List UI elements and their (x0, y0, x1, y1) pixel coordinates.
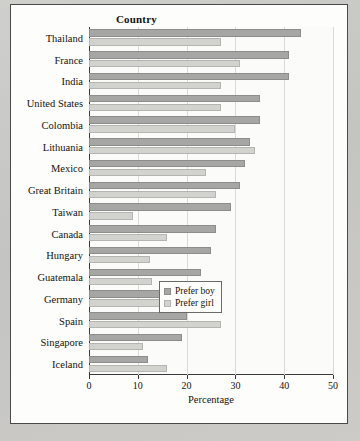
x-tick-mark-50 (333, 375, 334, 379)
y-axis-tick-label: Iceland (52, 359, 83, 370)
chart-row: Colombia (89, 114, 333, 136)
chart-row: Canada (89, 223, 333, 245)
x-tick-mark-30 (235, 375, 236, 379)
bar-prefer-girl (89, 169, 206, 176)
figure-panel: Country ThailandFranceIndiaUnited States… (10, 4, 348, 424)
y-axis-tick-label: India (61, 76, 83, 87)
bar-prefer-girl (89, 256, 150, 263)
y-axis-tick-label: Taiwan (52, 206, 83, 217)
y-axis-tick-label: Lithuania (43, 141, 83, 152)
x-axis-tick-label: 0 (87, 380, 92, 391)
x-tick-mark-20 (187, 375, 188, 379)
y-axis-tick-label: Guatemala (38, 272, 83, 283)
x-axis-tick-label: 20 (182, 380, 192, 391)
x-axis-title: Percentage (89, 394, 333, 405)
y-axis-tick-label: Spain (59, 315, 83, 326)
bar-prefer-girl (89, 60, 240, 67)
chart-row: India (89, 71, 333, 93)
bar-prefer-boy (89, 225, 216, 232)
legend-label-prefer-boy: Prefer boy (175, 285, 215, 297)
bar-prefer-girl (89, 234, 167, 241)
chart-row: Iceland (89, 353, 333, 375)
bar-prefer-girl (89, 212, 133, 219)
chart-row: Taiwan (89, 201, 333, 223)
bar-prefer-boy (89, 29, 301, 36)
x-axis-tick-label: 40 (279, 380, 289, 391)
bar-prefer-girl (89, 278, 152, 285)
chart-row: Hungary (89, 245, 333, 267)
chart-row: Lithuania (89, 136, 333, 158)
y-axis-tick-label: Singapore (40, 337, 83, 348)
bar-prefer-boy (89, 312, 187, 319)
legend-label-prefer-girl: Prefer girl (175, 297, 214, 309)
bar-prefer-boy (89, 51, 289, 58)
bar-prefer-boy (89, 356, 148, 363)
bar-prefer-girl (89, 125, 235, 132)
bar-prefer-girl (89, 191, 216, 198)
chart-row: United States (89, 92, 333, 114)
bar-prefer-boy (89, 73, 289, 80)
plot-area: ThailandFranceIndiaUnited StatesColombia… (89, 27, 333, 375)
bar-prefer-girl (89, 82, 221, 89)
bar-prefer-boy (89, 269, 201, 276)
bar-prefer-girl (89, 343, 143, 350)
x-tick-mark-10 (138, 375, 139, 379)
x-tick-mark-40 (284, 375, 285, 379)
y-axis-tick-label: Thailand (46, 32, 83, 43)
bar-prefer-boy (89, 203, 231, 210)
bar-prefer-girl (89, 38, 221, 45)
bar-prefer-boy (89, 116, 260, 123)
chart-row: Great Britain (89, 179, 333, 201)
x-axis-tick-label: 10 (133, 380, 143, 391)
chart-row: Mexico (89, 158, 333, 180)
bar-prefer-girl (89, 365, 167, 372)
x-axis-tick-label: 30 (230, 380, 240, 391)
bar-prefer-girl (89, 147, 255, 154)
y-axis-tick-label: United States (27, 98, 83, 109)
figure-panel-inner: Country ThailandFranceIndiaUnited States… (11, 5, 347, 423)
x-tick-mark-0 (89, 375, 90, 379)
bar-prefer-boy (89, 182, 240, 189)
y-axis-tick-label: Colombia (42, 119, 83, 130)
x-axis-tick-label: 50 (328, 380, 338, 391)
legend-item-prefer-boy: Prefer boy (164, 285, 215, 297)
y-axis-title: Country (37, 13, 157, 25)
bar-prefer-boy (89, 247, 211, 254)
chart-row: Spain (89, 310, 333, 332)
bar-prefer-girl (89, 321, 221, 328)
bar-prefer-boy (89, 138, 250, 145)
chart-row: Thailand (89, 27, 333, 49)
bar-prefer-boy (89, 95, 260, 102)
y-axis-tick-label: France (54, 54, 83, 65)
legend-item-prefer-girl: Prefer girl (164, 297, 215, 309)
y-axis-tick-label: Hungary (46, 250, 83, 261)
chart-row: France (89, 49, 333, 71)
chart-legend: Prefer boy Prefer girl (159, 281, 222, 313)
legend-swatch-prefer-boy (164, 288, 171, 295)
y-axis-tick-label: Germany (44, 293, 83, 304)
chart-row: Singapore (89, 332, 333, 354)
bar-prefer-boy (89, 160, 245, 167)
bar-prefer-girl (89, 104, 221, 111)
y-axis-tick-label: Mexico (51, 163, 83, 174)
y-axis-tick-label: Canada (52, 228, 84, 239)
bar-prefer-boy (89, 334, 182, 341)
legend-swatch-prefer-girl (164, 300, 171, 307)
gridline-50 (333, 27, 334, 375)
y-axis-tick-label: Great Britain (28, 185, 83, 196)
